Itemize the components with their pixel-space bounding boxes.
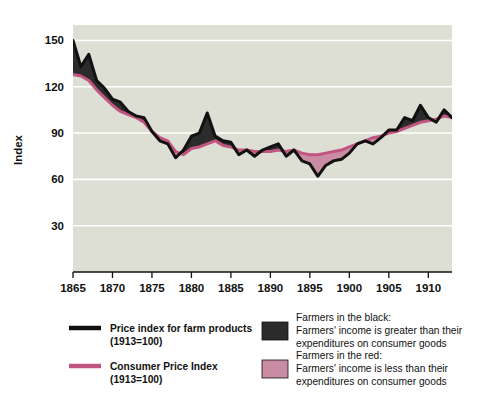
x-tick-1885: 1885 xyxy=(218,282,244,294)
y-tick-60: 60 xyxy=(51,173,64,185)
x-tick-1880: 1880 xyxy=(179,282,205,294)
x-tick-1890: 1890 xyxy=(258,282,284,294)
y-tick-90: 90 xyxy=(51,127,64,139)
legend-black-desc-line1: Farmers' income is greater than their xyxy=(296,325,463,336)
legend-black-title: Farmers in the black: xyxy=(296,312,391,323)
x-tick-1895: 1895 xyxy=(297,282,323,294)
legend-red-title: Farmers in the red: xyxy=(296,350,382,361)
y-tick-120: 120 xyxy=(45,81,64,93)
y-axis-title: Index xyxy=(12,134,24,165)
x-tick-1870: 1870 xyxy=(100,282,126,294)
price-index-chart: 306090120150 186518701875188018851890189… xyxy=(0,0,482,409)
y-tick-30: 30 xyxy=(51,220,64,232)
legend-black-desc-line2: expenditures on consumer goods xyxy=(296,338,447,349)
legend-farm-products-label-line2: (1913=100) xyxy=(110,336,162,347)
chart-figure: 306090120150 186518701875188018851890189… xyxy=(0,0,482,409)
x-tick-1865: 1865 xyxy=(60,282,86,294)
legend-cpi-label-line1: Consumer Price Index xyxy=(110,361,218,372)
y-tick-150: 150 xyxy=(45,34,64,46)
x-tick-1875: 1875 xyxy=(139,282,165,294)
x-tick-1900: 1900 xyxy=(337,282,363,294)
pink-fill-swatch xyxy=(262,360,288,378)
legend-cpi-label-line2: (1913=100) xyxy=(110,374,162,385)
legend-farm-products-label-line1: Price index for farm products xyxy=(110,323,252,334)
black-fill-swatch xyxy=(262,322,288,340)
x-tick-1910: 1910 xyxy=(416,282,442,294)
x-tick-1905: 1905 xyxy=(376,282,402,294)
legend-red-desc-line2: expenditures on consumer goods xyxy=(296,376,447,387)
legend-red-desc-line1: Farmers' income is less than their xyxy=(296,363,449,374)
